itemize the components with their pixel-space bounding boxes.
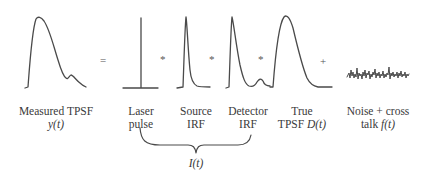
label-noise-line1: Noise + cross <box>342 105 414 118</box>
measured-tpsf-curve <box>25 17 86 88</box>
label-noise: Noise + cross talk f(t) <box>342 105 414 131</box>
true-tpsf-curve <box>270 16 332 87</box>
label-true-line2-math: D(t) <box>307 118 326 130</box>
label-i-t: I(t) <box>184 157 208 170</box>
label-laser-line1: Laser <box>124 105 158 118</box>
laser-pulse-curve <box>123 18 158 88</box>
diagram-curves <box>0 0 426 175</box>
equals-operator: = <box>100 54 106 66</box>
label-true-line2: TPSF D(t) <box>274 118 330 131</box>
label-detector-line2: IRF <box>224 118 272 131</box>
label-detector-line1: Detector <box>224 105 272 118</box>
label-detector-irf: Detector IRF <box>224 105 272 131</box>
label-true-line2-text: TPSF <box>278 118 307 130</box>
convolution-operator-3: * <box>258 53 264 65</box>
tpsf-convolution-diagram: = * * * + Measured TPSF y(t) Laser pulse… <box>0 0 426 175</box>
label-source-irf: Source IRF <box>176 105 216 131</box>
label-measured-line1: Measured TPSF <box>18 105 94 118</box>
plus-operator: + <box>320 55 326 67</box>
label-source-line1: Source <box>176 105 216 118</box>
source-irf-curve <box>177 17 210 88</box>
label-measured-line2: y(t) <box>18 118 94 131</box>
noise-curve <box>347 67 409 79</box>
label-noise-line2-math: f(t) <box>381 118 395 130</box>
label-laser-pulse: Laser pulse <box>124 105 158 131</box>
label-source-line2: IRF <box>176 118 216 131</box>
convolution-operator-1: * <box>160 53 166 65</box>
label-true-tpsf: True TPSF D(t) <box>274 105 330 131</box>
label-measured-tpsf: Measured TPSF y(t) <box>18 105 94 131</box>
label-laser-line2: pulse <box>124 118 158 131</box>
brace-i-t <box>140 128 251 153</box>
label-noise-line2: talk f(t) <box>342 118 414 131</box>
label-noise-line2-text: talk <box>361 118 381 130</box>
label-true-line1: True <box>274 105 330 118</box>
convolution-operator-2: * <box>209 53 215 65</box>
